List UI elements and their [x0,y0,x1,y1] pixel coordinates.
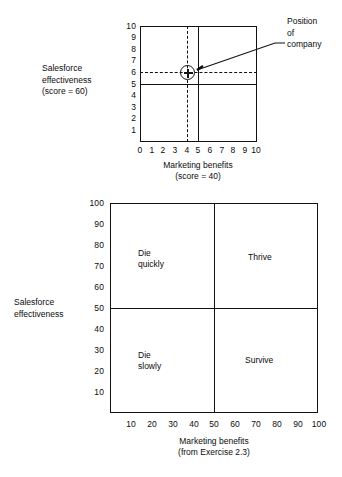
bottom-chart-ytick-90: 90 [82,220,104,229]
bottom-chart-x-axis-label: Marketing benefits (from Exercise 2.3) [114,436,314,458]
quadrant-label-die-slowly: Die slowly [138,350,161,372]
bottom-chart-xtick-20: 20 [143,420,161,429]
bottom-chart-ytick-20: 20 [82,367,104,376]
bottom-chart-ytick-40: 40 [82,325,104,334]
bottom-chart-xtick-60: 60 [226,420,244,429]
bottom-chart-xtick-70: 70 [247,420,265,429]
figure-page: Position of company 10 9 8 7 6 5 4 3 2 1… [0,0,342,477]
bottom-chart-divider-horizontal [110,308,318,309]
quadrant-label-die-quickly: Die quickly [138,248,164,270]
bottom-chart-y-axis-label-line1: Salesforce [14,297,63,309]
quadrant-label-die-quickly-line1: Die [138,248,164,259]
bottom-chart-ytick-10: 10 [82,388,104,397]
quadrant-label-die-quickly-line2: quickly [138,259,164,270]
bottom-chart-ytick-60: 60 [82,283,104,292]
bottom-chart-y-axis-label: Salesforce effectiveness [14,297,63,320]
bottom-chart-xtick-40: 40 [185,420,203,429]
bottom-chart-ytick-50: 50 [82,304,104,313]
quadrant-label-thrive: Thrive [248,252,272,263]
bottom-chart-x-axis-label-sub: (from Exercise 2.3) [114,447,314,458]
bottom-chart-ytick-80: 80 [82,241,104,250]
quadrant-label-thrive-line1: Thrive [248,252,272,263]
bottom-chart-y-axis-label-line2: effectiveness [14,309,63,321]
bottom-quadrant-chart: Die quickly Thrive Die slowly Survive 10… [0,0,342,477]
bottom-chart-ytick-30: 30 [82,346,104,355]
quadrant-label-die-slowly-line1: Die [138,350,161,361]
bottom-chart-xtick-30: 30 [164,420,182,429]
quadrant-label-survive: Survive [245,355,273,366]
bottom-chart-xtick-10: 10 [122,420,140,429]
bottom-chart-xtick-90: 90 [289,420,307,429]
bottom-chart-ytick-70: 70 [82,262,104,271]
bottom-chart-xtick-100: 100 [308,420,330,429]
quadrant-label-die-slowly-line2: slowly [138,361,161,372]
bottom-chart-x-axis-label-main: Marketing benefits [114,436,314,447]
quadrant-label-survive-line1: Survive [245,355,273,366]
bottom-chart-ytick-100: 100 [82,199,104,208]
bottom-chart-xtick-50: 50 [205,420,223,429]
bottom-chart-xtick-80: 80 [268,420,286,429]
